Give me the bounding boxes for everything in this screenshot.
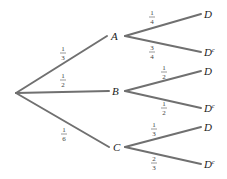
svg-text:4: 4 <box>150 53 154 61</box>
prob-c-d: 1 3 <box>151 121 157 138</box>
svg-text:1: 1 <box>162 64 166 72</box>
svg-text:2: 2 <box>152 155 156 163</box>
leaf-a-d: D <box>203 8 212 20</box>
edge-a-dc <box>125 36 201 52</box>
svg-text:3: 3 <box>152 164 156 172</box>
leaf-c-dc: Dc <box>203 158 215 170</box>
prob-a-dc: 3 4 <box>149 44 155 61</box>
node-c: C <box>113 141 121 153</box>
prob-c: 1 6 <box>61 126 67 143</box>
prob-a-d: 1 4 <box>149 9 155 26</box>
svg-text:3: 3 <box>150 44 154 52</box>
svg-text:1: 1 <box>61 45 65 53</box>
svg-text:2: 2 <box>61 81 65 89</box>
svg-text:1: 1 <box>152 121 156 129</box>
svg-text:2: 2 <box>162 73 166 81</box>
edge-c-dc <box>125 147 201 164</box>
svg-text:2: 2 <box>162 109 166 117</box>
prob-b-dc: 1 2 <box>161 100 167 117</box>
leaf-c-d: D <box>203 121 212 133</box>
svg-text:1: 1 <box>150 9 154 17</box>
svg-text:3: 3 <box>152 130 156 138</box>
prob-a: 1 3 <box>60 45 66 62</box>
edge-root-b <box>16 91 109 93</box>
svg-text:3: 3 <box>61 54 65 62</box>
probability-tree: A B C D Dc D Dc D Dc 1 3 1 2 1 6 1 4 3 4… <box>0 0 227 179</box>
svg-text:1: 1 <box>61 72 65 80</box>
svg-text:4: 4 <box>150 18 154 26</box>
leaf-b-d: D <box>203 65 212 77</box>
leaf-a-dc: Dc <box>203 46 215 58</box>
svg-text:6: 6 <box>62 135 66 143</box>
node-a: A <box>110 30 118 42</box>
edge-c-d <box>125 127 201 147</box>
svg-text:1: 1 <box>62 126 66 134</box>
prob-c-dc: 2 3 <box>151 155 157 172</box>
node-b: B <box>112 85 119 97</box>
leaf-b-dc: Dc <box>203 102 215 114</box>
prob-b-d: 1 2 <box>161 64 167 81</box>
edge-a-d <box>125 14 201 36</box>
svg-text:1: 1 <box>162 100 166 108</box>
prob-b: 1 2 <box>60 72 66 89</box>
